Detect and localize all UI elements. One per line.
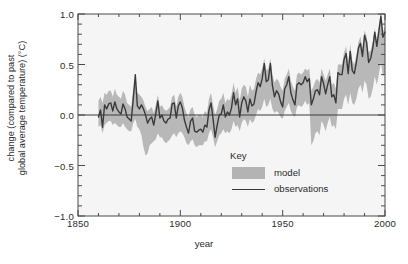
legend-model-label: model [274, 167, 300, 178]
chart-legend: Key model observations [226, 150, 366, 212]
x-axis-tick-labels: 1850 1900 1950 2000 [0, 218, 408, 232]
x-tick-label: 2000 [374, 218, 396, 229]
legend-model-swatch [232, 167, 265, 179]
temperature-anomaly-chart: change (compared to past global average … [0, 0, 408, 264]
legend-title: Key [230, 150, 247, 161]
x-tick-label: 1950 [272, 218, 294, 229]
x-tick-label: 1850 [67, 218, 89, 229]
x-axis-title: year [0, 238, 408, 249]
legend-observations-label: observations [274, 183, 328, 194]
x-tick-label: 1900 [169, 218, 191, 229]
legend-observations-line [232, 189, 265, 190]
